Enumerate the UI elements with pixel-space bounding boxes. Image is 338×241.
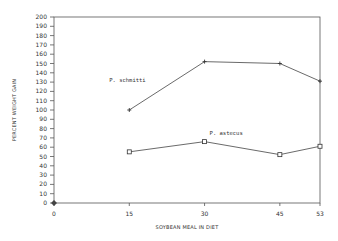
x-tick-label: 30: [201, 210, 209, 217]
y-tick-label: 120: [36, 87, 48, 94]
series-annotation: P. schmitti: [109, 77, 145, 83]
y-tick-label: 40: [39, 162, 47, 169]
series-annotation: P. astecus: [210, 130, 243, 136]
y-tick-label: 0: [43, 199, 47, 206]
y-tick-label: 170: [36, 41, 48, 48]
x-axis-title: SOYBEAN MEAL IN DIET: [156, 224, 220, 230]
line-chart: 0102030405060708090100110120130140150160…: [0, 0, 338, 241]
plot-border: [54, 17, 320, 203]
y-tick-label: 30: [39, 171, 47, 178]
y-tick-label: 130: [36, 78, 48, 85]
y-tick-label: 180: [36, 32, 48, 39]
y-tick-label: 140: [36, 69, 48, 76]
x-axis: 015304553: [52, 203, 324, 217]
x-tick-label: 45: [276, 210, 284, 217]
square-marker: [278, 153, 282, 157]
series-labels: P. schmittiP. astecus: [109, 77, 243, 136]
y-tick-label: 10: [39, 190, 47, 197]
square-marker: [127, 150, 131, 154]
x-tick-label: 0: [52, 210, 56, 217]
y-tick-label: 200: [36, 13, 48, 20]
data-series: [51, 60, 322, 206]
y-tick-label: 80: [39, 125, 47, 132]
x-tick-label: 15: [125, 210, 133, 217]
y-axis-title: PERCENT WEIGHT GAIN: [11, 79, 17, 142]
y-tick-label: 160: [36, 50, 48, 57]
y-tick-label: 100: [36, 106, 48, 113]
square-marker: [318, 144, 322, 148]
square-marker: [203, 140, 207, 144]
y-tick-label: 150: [36, 60, 48, 67]
y-tick-label: 60: [39, 143, 47, 150]
x-tick-label: 53: [316, 210, 324, 217]
y-axis: 0102030405060708090100110120130140150160…: [36, 13, 54, 206]
y-tick-label: 90: [39, 115, 47, 122]
y-tick-label: 20: [39, 180, 47, 187]
series-line: [129, 142, 320, 155]
series-line: [129, 62, 320, 110]
y-tick-label: 50: [39, 153, 47, 160]
y-tick-label: 70: [39, 134, 47, 141]
origin-diamond-marker: [51, 200, 57, 206]
y-tick-label: 190: [36, 22, 48, 29]
y-tick-label: 110: [36, 97, 48, 104]
plot-frame: [54, 17, 320, 203]
